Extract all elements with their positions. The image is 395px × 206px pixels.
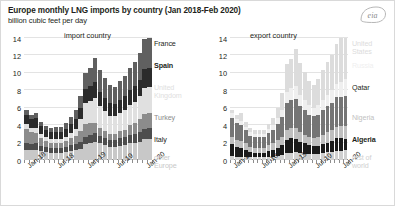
exports-ytick-6: 6 (223, 104, 227, 113)
bar-segment-russia (344, 79, 348, 95)
xtick-mark (137, 160, 138, 163)
imports-ytick-2: 2 (17, 139, 21, 148)
xtick-mark (24, 160, 25, 163)
xtick-mark (44, 160, 45, 163)
legend-item-italy[interactable]: Italy (154, 136, 167, 144)
eia-logo: eia (359, 5, 387, 25)
xtick-mark (73, 160, 74, 163)
xtick-mark (253, 160, 254, 163)
xtick-mark (303, 160, 304, 163)
xtick-mark (113, 160, 114, 163)
exports-ytick-14: 14 (219, 34, 227, 43)
exports-ytick-0: 0 (223, 156, 227, 165)
xtick-mark (54, 160, 55, 163)
legend-item-france[interactable]: France (154, 40, 176, 48)
legend-item-united-kingdom[interactable]: United Kingdom (154, 84, 182, 101)
xtick-mark (142, 160, 143, 163)
exports-ytick-8: 8 (223, 86, 227, 95)
exports-ytick-2: 2 (223, 139, 227, 148)
xtick-mark (275, 160, 276, 163)
bar-segment-turkey (147, 113, 151, 128)
exports-ytick-4: 4 (223, 121, 227, 130)
imports-ytick-4: 4 (17, 121, 21, 130)
legend-item-rest-of-world[interactable]: rest of world (352, 154, 371, 171)
page-subtitle: billion cubic feet per day (8, 16, 87, 25)
imports-plot-area: 02468101214Jan-18Jul-18Jan-19Jul-19Jan-2… (24, 38, 152, 160)
bar-segment-other-europe (147, 139, 151, 160)
legend-item-qatar[interactable]: Qatar (352, 84, 369, 92)
exports-plot-area: 02468101214Jan-18Jul-18Jan-19Jul-19Jan-2… (230, 38, 348, 160)
xtick-mark (248, 160, 249, 163)
exports-ytick-10: 10 (219, 69, 227, 78)
legend-item-algeria[interactable]: Algeria (352, 136, 376, 144)
xtick-mark (307, 160, 308, 163)
bar-segment-united-states (344, 38, 348, 79)
xtick-mark (78, 160, 79, 163)
bar-segment-nigeria (344, 126, 348, 138)
xtick-mark (339, 160, 340, 163)
bar-segment-qatar (344, 96, 348, 127)
xtick-mark (312, 160, 313, 163)
page-title: Europe monthly LNG imports by country (J… (8, 6, 241, 15)
bar-segment-spain (147, 68, 151, 87)
legend-item-russia[interactable]: Russia (352, 62, 373, 70)
bar-segment-france (147, 38, 151, 68)
bar-segment-algeria (344, 139, 348, 151)
legend-item-other-europe[interactable]: other Europe (154, 154, 177, 171)
xtick-mark (230, 160, 231, 163)
xtick-mark (334, 160, 335, 163)
imports-ytick-0: 0 (17, 156, 21, 165)
exports-chart-title: export country (250, 31, 297, 40)
xtick-mark (257, 160, 258, 163)
imports-ytick-6: 6 (17, 104, 21, 113)
imports-ytick-8: 8 (17, 86, 21, 95)
legend-item-spain[interactable]: Spain (154, 62, 173, 70)
xtick-mark (280, 160, 281, 163)
exports-bars (230, 38, 348, 160)
bar-Feb-20[interactable] (147, 38, 152, 160)
imports-ytick-14: 14 (13, 34, 21, 43)
exports-ytick-12: 12 (219, 51, 227, 60)
xtick-mark (83, 160, 84, 163)
imports-ytick-10: 10 (13, 69, 21, 78)
xtick-mark (330, 160, 331, 163)
exports-chart-panel: export country 02468101214Jan-18Jul-18Ja… (202, 28, 395, 200)
imports-bars (24, 38, 152, 160)
bar-segment-united-kingdom (147, 87, 151, 113)
xtick-mark (103, 160, 104, 163)
xtick-mark (132, 160, 133, 163)
imports-chart-title: import country (64, 31, 111, 40)
xtick-mark (49, 160, 50, 163)
xtick-mark (284, 160, 285, 163)
legend-item-turkey[interactable]: Turkey (154, 114, 175, 122)
imports-ytick-12: 12 (13, 51, 21, 60)
imports-chart-panel: import country 02468101214Jan-18Jul-18Ja… (2, 28, 202, 200)
svg-text:eia: eia (368, 11, 378, 20)
bar-Feb-20[interactable] (343, 38, 348, 160)
legend-item-united-states[interactable]: United States (352, 40, 372, 57)
bar-segment-italy (147, 128, 151, 139)
xtick-mark (108, 160, 109, 163)
legend-item-nigeria[interactable]: Nigeria (352, 114, 374, 122)
